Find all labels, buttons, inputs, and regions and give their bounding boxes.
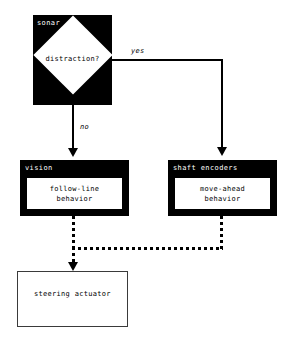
node-shaft-encoders-behavior-box[interactable]: move-ahead behavior [174,177,271,210]
node-shaft-encoders-behavior-text: move-ahead behavior [200,184,245,204]
edge-yes-arrowhead [217,147,227,156]
edge-yes-horizontal [112,59,223,61]
node-vision-label: vision [25,165,53,172]
edge-no-arrowhead [68,148,78,157]
edge-label-no: no [80,124,89,131]
edge-steering-arrowhead [68,262,78,271]
node-vision-behavior-box[interactable]: follow-line behavior [26,177,123,210]
node-shaft-encoders-label: shaft encoders [173,165,238,172]
edge-label-yes: yes [131,48,145,55]
edge-vision-output-dotted [72,216,75,250]
node-vision-behavior-text: follow-line behavior [50,184,100,204]
flowchart-canvas: sonar distraction? yes no vision follow-… [0,0,295,340]
edge-output-bus-dotted [72,247,223,250]
decision-question-text: distraction? [33,56,112,63]
edge-yes-vertical [221,59,223,147]
edge-shaft-encoders-output-dotted [220,216,223,250]
edge-steering-input-dotted [72,247,75,263]
edge-no-vertical [72,100,74,148]
node-steering-actuator[interactable] [17,271,128,327]
node-sonar-label: sonar [37,20,60,27]
node-steering-actuator-label: steering actuator [34,291,111,298]
